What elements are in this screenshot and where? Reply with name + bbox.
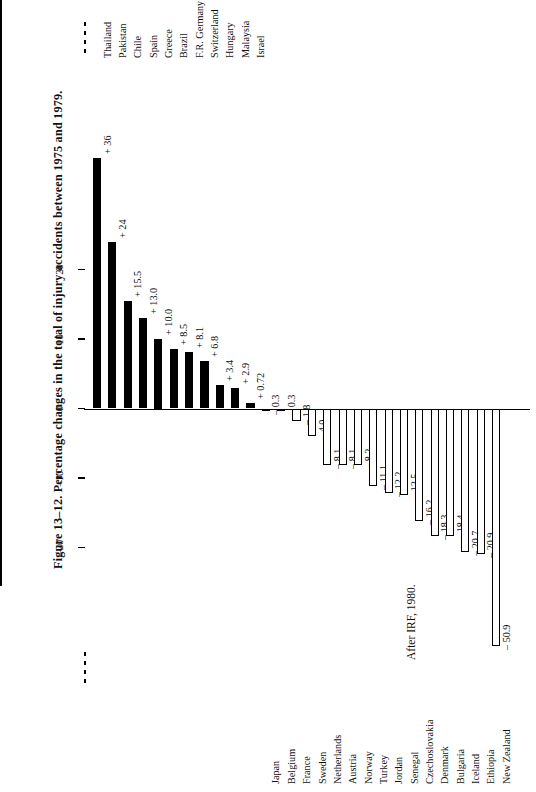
bar-france [292,409,300,422]
category-label: Ethiopia [485,749,496,784]
category-label: New Zealand [501,729,512,784]
category-label: Bulgaria [455,749,466,784]
category-label: Pakistan [117,23,128,58]
bar-value-label: + 36 [102,136,113,154]
axis-break-top [84,22,86,58]
bar-value-label: + 6.8 [209,336,220,357]
category-label: Chile [132,36,143,58]
bar-ethiopia [477,409,485,554]
category-label: Austria [347,754,358,784]
bar-value-label: + 13.0 [148,288,159,314]
category-label: Israel [255,35,266,58]
category-label: Brazil [178,33,189,58]
category-label: Switzerland [209,9,220,58]
bar-new-zealand [492,409,500,647]
bar-value-label: + 3.4 [224,360,235,381]
bar-thailand [93,158,101,408]
bar-value-label: + 8.5 [178,324,189,345]
bar-israel [246,403,254,408]
axis-tick-mark [78,547,85,548]
bar-belgium [277,409,285,411]
category-label: Senegal [409,752,420,784]
bar-value-label: – 50.9 [501,625,512,650]
category-label: Czechoslovakia [424,720,435,785]
bar-austria [339,409,347,465]
chart-plot-area: 20100–10–20 + 36Thailand+ 24Pakistan+ 15… [0,0,536,792]
bar-value-label: – 0.3 [270,394,281,414]
bar-f-r-germany [185,352,193,408]
category-label: Turkey [378,755,389,784]
category-label: Iceland [470,754,481,784]
bar-iceland [461,409,469,553]
bar-value-label: + 8.1 [194,327,205,348]
category-label: Belgium [286,749,297,784]
figure-caption: Figure 13–12. Percentage changes in the … [46,9,70,569]
axis-tick-mark [78,338,85,339]
axis-tick-mark [78,408,85,409]
category-label: France [301,756,312,784]
category-label: Sweden [317,752,328,784]
bar-value-label: + 24 [117,219,128,237]
bar-sweden [308,409,316,437]
axis-break-bottom [84,652,86,684]
category-label: Jordan [393,757,404,784]
bar-pakistan [108,242,116,409]
value-axis-line [0,0,2,586]
category-label: F.R. Germany [194,1,205,58]
category-label: Japan [270,761,281,784]
bar-value-label: + 15.5 [132,271,143,297]
bar-greece [154,339,162,409]
bar-bulgaria [446,409,454,537]
bar-value-label: + 2.9 [240,363,251,384]
category-label: Hungary [224,22,235,58]
bar-spain [139,318,147,408]
bar-jordan [385,409,393,494]
bar-break-marker [92,84,102,87]
category-label: Netherlands [332,735,343,784]
bar-turkey [369,409,377,486]
category-label: Greece [163,29,174,58]
bar-brazil [170,349,178,408]
bar-denmark [431,409,439,536]
bar-malaysia [231,388,239,408]
category-label: Thailand [102,22,113,58]
category-label: Denmark [439,746,450,784]
bar-japan [262,409,270,411]
bar-netherlands [323,409,331,465]
bar-hungary [216,385,224,409]
bar-chile [124,301,132,409]
category-label: Malaysia [240,21,251,58]
figure-source-note: After IRF, 1980. [402,480,420,660]
bar-value-label: + 10.0 [163,309,174,335]
bar-norway [354,409,362,466]
axis-tick-mark [78,477,85,478]
bar-switzerland [200,361,208,408]
axis-tick-mark [78,269,85,270]
category-label: Norway [363,751,374,784]
bar-value-label: + 0.72 [255,373,266,399]
category-label: Spain [148,35,159,58]
